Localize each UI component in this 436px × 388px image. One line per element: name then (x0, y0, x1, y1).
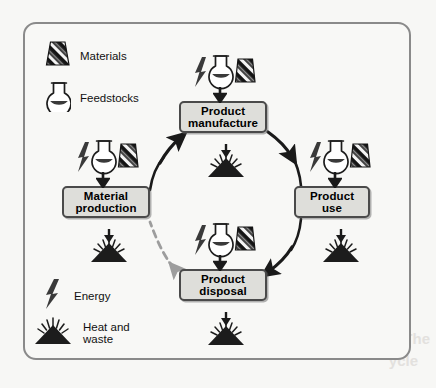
legend-item-materials: Materials (45, 40, 127, 72)
flask-icon (45, 80, 71, 116)
materials-trapezoid-icon (351, 144, 371, 167)
heat-waste-mound-icon (91, 243, 127, 262)
materials-trapezoid-icon (236, 227, 256, 250)
lightning-bolt-icon (195, 57, 206, 87)
materials-trapezoid-icon (119, 144, 139, 167)
legend-item-energy: Energy (41, 277, 110, 315)
flow-arrow-manufacture-to-use (268, 132, 301, 186)
input-arrow-product-use (328, 172, 342, 188)
stage-box-material-production[interactable]: Material production (62, 186, 150, 218)
heat-waste-mound-icon (208, 326, 244, 345)
flow-arrow-recycle-disposal-to-material (150, 222, 174, 268)
stage-box-product-disposal[interactable]: Product disposal (179, 269, 267, 301)
input-arrow-product-disposal (213, 255, 227, 271)
stage-box-product-manufacture[interactable]: Product manufacture (179, 101, 267, 133)
input-arrow-product-manufacture (213, 87, 227, 103)
input-cluster-material-production (73, 138, 139, 186)
legend-item-feedstocks: Feedstocks (45, 80, 139, 116)
stage-label-material-production: Material production (75, 190, 136, 215)
materials-trapezoid-icon (45, 40, 71, 72)
flask-icon (324, 141, 348, 174)
heat-waste-mound-icon (323, 243, 359, 262)
legend-label-materials: Materials (80, 50, 127, 63)
input-cluster-product-use (305, 138, 371, 186)
flask-icon (92, 141, 116, 174)
flow-arrow-use-to-disposal (268, 219, 301, 272)
lightning-bolt-icon (41, 277, 65, 315)
diagram-page: The ycle (0, 0, 436, 388)
lightning-bolt-icon (195, 225, 206, 255)
materials-trapezoid-icon (236, 59, 256, 82)
stage-label-product-use: Product use (310, 190, 354, 215)
legend-item-heat-waste: Heat and waste (32, 315, 130, 351)
input-cluster-product-disposal (190, 221, 256, 269)
input-arrow-material-production (96, 172, 110, 188)
flask-icon (209, 56, 233, 89)
stage-box-product-use[interactable]: Product use (294, 186, 370, 218)
stage-label-product-disposal: Product disposal (199, 273, 246, 298)
input-cluster-product-manufacture (190, 53, 256, 101)
output-heat-waste-product-disposal (205, 312, 247, 352)
heat-waste-mound-icon (208, 158, 244, 177)
legend-label-feedstocks: Feedstocks (80, 92, 139, 105)
stage-label-product-manufacture: Product manufacture (188, 105, 258, 130)
heat-waste-mound-icon (32, 315, 74, 351)
legend-label-heat-waste: Heat and waste (83, 321, 130, 346)
lightning-bolt-icon (78, 142, 89, 172)
output-heat-waste-material-production (88, 229, 130, 269)
legend-label-energy: Energy (74, 290, 110, 303)
output-heat-waste-product-use (320, 229, 362, 269)
lightning-bolt-icon (310, 142, 321, 172)
flask-icon (209, 224, 233, 257)
output-heat-waste-product-manufacture (205, 144, 247, 184)
flow-arrow-material-to-manufacture (150, 138, 180, 190)
